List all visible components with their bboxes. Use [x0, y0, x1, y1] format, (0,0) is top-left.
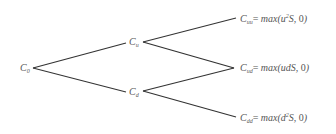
node-ud-close: ): [306, 62, 309, 73]
edge-root-up: [33, 43, 126, 68]
node-down-label: Cd: [129, 87, 139, 98]
node-dd-arg-post: S,: [289, 112, 299, 123]
node-uu-base: C: [240, 13, 247, 24]
edge-down-ud: [143, 68, 234, 91]
node-down-base: C: [129, 86, 136, 97]
node-uu-label: Cuu= max(u2S, 0): [240, 13, 307, 25]
edge-root-down: [33, 68, 126, 92]
node-up-label: Cu: [129, 37, 139, 48]
node-up-base: C: [129, 36, 136, 47]
node-up-sub: u: [136, 42, 139, 48]
node-dd-close: ): [304, 112, 307, 123]
node-uu-arg-post: S,: [289, 13, 299, 24]
node-root-base: C: [20, 62, 27, 73]
node-dd-label: Cdd= max(d2S, 0): [240, 112, 307, 124]
node-dd-fn: max(: [261, 112, 281, 123]
node-ud-equals: =: [253, 62, 261, 73]
node-ud-fn: max(: [261, 62, 281, 73]
node-dd-base: C: [240, 112, 247, 123]
node-ud-label: Cud= max(udS, 0): [240, 63, 309, 74]
node-uu-close: ): [304, 13, 307, 24]
node-uu-equals: =: [253, 13, 261, 24]
node-ud-arg-pre: udS: [281, 62, 296, 73]
edge-up-uu: [143, 18, 236, 42]
node-root-label: C0: [20, 63, 30, 74]
node-dd-equals: =: [253, 112, 261, 123]
edge-down-dd: [143, 91, 236, 117]
edge-up-ud: [143, 42, 234, 68]
node-down-sub: d: [136, 92, 139, 98]
node-uu-fn: max(: [261, 13, 281, 24]
node-ud-base: C: [240, 62, 247, 73]
node-root-sub: 0: [27, 68, 30, 74]
